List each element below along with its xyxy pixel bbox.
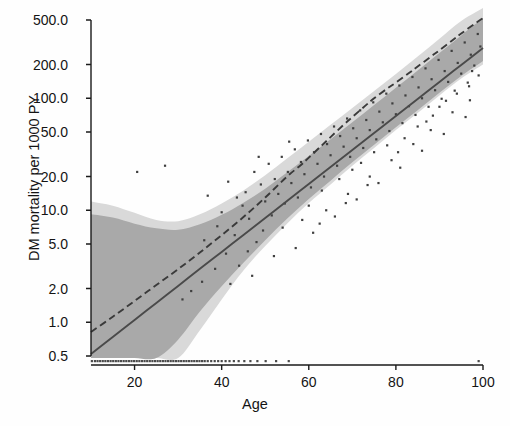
zero-rate-point: [204, 360, 206, 362]
zero-rate-point: [214, 360, 216, 362]
x-tick-label: 20: [127, 374, 143, 390]
data-point: [294, 148, 296, 150]
zero-rate-point: [112, 360, 114, 362]
data-point: [417, 86, 419, 88]
data-point: [268, 163, 270, 165]
data-point: [227, 181, 229, 183]
data-point: [365, 119, 367, 121]
data-point: [238, 265, 240, 267]
data-point: [207, 195, 209, 197]
zero-rate-point: [228, 360, 230, 362]
zero-rate-point: [125, 360, 127, 362]
x-tick-label: 80: [388, 374, 404, 390]
zero-rate-point: [193, 360, 195, 362]
data-point: [349, 156, 351, 158]
data-point: [288, 141, 290, 143]
zero-rate-point: [196, 360, 198, 362]
zero-rate-point: [221, 360, 223, 362]
zero-rate-point: [170, 360, 172, 362]
data-point: [329, 154, 331, 156]
data-point: [464, 116, 466, 118]
zero-rate-point: [154, 360, 156, 362]
data-point: [201, 281, 203, 283]
zero-rate-point: [201, 360, 203, 362]
data-point: [264, 200, 266, 202]
data-point: [359, 109, 361, 111]
zero-rate-point: [478, 360, 480, 362]
zero-rate-point: [256, 360, 258, 362]
zero-rate-point: [138, 360, 140, 362]
data-point: [456, 93, 458, 95]
data-point: [310, 186, 312, 188]
data-point: [372, 101, 374, 103]
data-point: [300, 161, 302, 163]
zero-rate-point: [96, 360, 98, 362]
data-point: [319, 223, 321, 225]
data-point: [312, 232, 314, 234]
data-point: [431, 78, 433, 80]
data-point: [386, 144, 388, 146]
zero-rate-point: [198, 360, 200, 362]
data-point: [316, 163, 318, 165]
data-point: [282, 227, 284, 229]
data-point: [334, 215, 336, 217]
zero-rate-point: [115, 360, 117, 362]
data-point: [251, 275, 253, 277]
data-point: [164, 165, 166, 167]
data-point: [464, 41, 466, 43]
data-point: [241, 205, 243, 207]
data-point: [214, 268, 216, 270]
data-point: [181, 298, 183, 300]
zero-rate-point: [275, 360, 277, 362]
data-point: [356, 198, 358, 200]
data-point: [281, 156, 283, 158]
data-point: [271, 214, 273, 216]
zero-rate-point: [107, 360, 109, 362]
data-point: [398, 84, 400, 86]
data-point: [451, 111, 453, 113]
zero-rate-point: [99, 360, 101, 362]
data-point: [356, 137, 358, 139]
zero-rate-point: [185, 360, 187, 362]
zero-rate-point: [172, 360, 174, 362]
data-point: [377, 182, 379, 184]
data-point: [369, 175, 371, 177]
data-point: [255, 241, 257, 243]
data-point: [427, 106, 429, 108]
data-point: [477, 33, 479, 35]
data-point: [432, 115, 434, 117]
data-point: [236, 196, 238, 198]
data-point: [338, 178, 340, 180]
data-point: [469, 99, 471, 101]
data-point: [248, 218, 250, 220]
data-point: [375, 138, 377, 140]
data-point: [225, 253, 227, 255]
x-axis-title: Age: [0, 396, 510, 412]
data-point: [385, 93, 387, 95]
data-point: [401, 122, 403, 124]
data-point: [382, 121, 384, 123]
data-point: [388, 130, 390, 132]
data-point: [397, 151, 399, 153]
data-point: [290, 182, 292, 184]
data-point: [216, 225, 218, 227]
data-point: [471, 70, 473, 72]
data-point: [229, 283, 231, 285]
x-tick-label: 60: [301, 374, 317, 390]
data-point: [336, 165, 338, 167]
zero-rate-point: [162, 360, 164, 362]
zero-rate-point: [191, 360, 193, 362]
zero-rate-point: [243, 360, 245, 362]
x-tick-label: 40: [214, 374, 230, 390]
zero-rate-point: [249, 360, 251, 362]
data-point: [404, 94, 406, 96]
data-point: [470, 54, 472, 56]
y-tick-label: 0.5: [6, 348, 68, 364]
data-point: [262, 229, 264, 231]
zero-rate-point: [207, 360, 209, 362]
zero-rate-point: [128, 360, 130, 362]
data-point: [399, 167, 401, 169]
data-point: [437, 59, 439, 61]
data-point: [345, 202, 347, 204]
data-point: [414, 114, 416, 116]
